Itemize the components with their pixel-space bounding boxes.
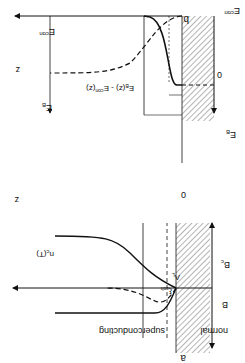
normal-region-hatch [182, 16, 214, 121]
b-field-curve [144, 16, 182, 85]
bc-label: Bc [221, 259, 230, 270]
econ-curve-label: Econ [39, 27, 55, 37]
econ-curve [55, 236, 176, 288]
diff-label: EB(z) - Econ(z) [86, 83, 134, 94]
superconducting-label: superconducting [99, 326, 165, 336]
origin-label-b: 0 [217, 70, 222, 80]
normal-label: normal [200, 326, 228, 336]
z-label-b: z [15, 65, 20, 75]
superconductor-interface-figure: a b z 0 B Bc nc(T) ΛL ξcoh normal superc… [0, 0, 245, 363]
panel-b-label: b [183, 14, 189, 25]
z-label-a: z [14, 195, 19, 205]
panel-a-label: a [180, 353, 186, 363]
econ-axis-label: Econ [224, 6, 240, 16]
lambda-label: ΛL [172, 272, 180, 282]
eb-curve-label: EB [42, 102, 52, 113]
eb-curve [55, 288, 176, 313]
b-axis-label: B [222, 300, 228, 310]
xi-label: ξcoh [161, 286, 172, 295]
eb-axis-label: EB [226, 129, 236, 140]
origin-label-a: 0 [181, 190, 186, 200]
nc-label: nc(T) [36, 249, 54, 259]
nc-curve [50, 16, 182, 73]
